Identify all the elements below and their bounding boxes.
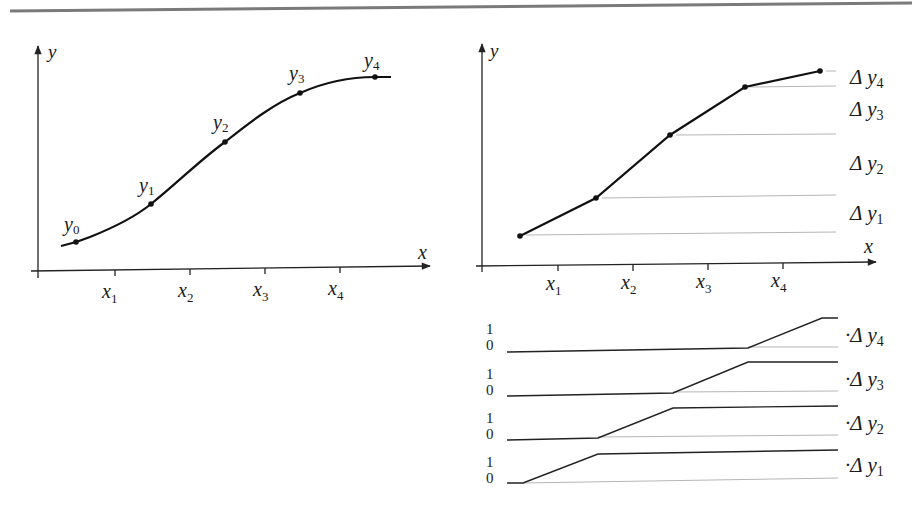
left-y-axis-label: y bbox=[46, 41, 57, 62]
ramp-label-zero: 0 bbox=[486, 382, 494, 398]
left-tick-x1: x1 bbox=[101, 280, 117, 306]
right-y-axis-label: y bbox=[488, 40, 499, 61]
label-delta-y1: Δ y1 bbox=[849, 201, 884, 227]
left-tick-x4: x4 bbox=[327, 277, 344, 303]
ramp-row-delta-y3: 1 0 ·Δ y3 bbox=[486, 362, 884, 398]
label-delta-y2: Δ y2 bbox=[849, 151, 884, 177]
label-y3: y3 bbox=[287, 62, 304, 86]
left-chart: y x x1 x2 x3 x4 y0 y1 y2 y3 y4 bbox=[31, 41, 430, 306]
right-tick-x3: x3 bbox=[695, 270, 711, 296]
ramp-row-delta-y4: 1 0 ·Δ y4 bbox=[486, 318, 884, 353]
ramp-label-one: 1 bbox=[486, 321, 494, 337]
left-tick-x2: x2 bbox=[177, 279, 193, 305]
ramp-label-zero: 0 bbox=[486, 426, 494, 442]
right-points bbox=[517, 68, 823, 239]
right-tick-x2: x2 bbox=[620, 271, 636, 297]
ramp-label-one: 1 bbox=[486, 454, 494, 470]
ramp-row-delta-y2: 1 0 ·Δ y2 bbox=[486, 406, 884, 442]
right-tick-x1: x1 bbox=[545, 272, 561, 298]
ramp-label-delta-y4: ·Δ y4 bbox=[845, 323, 884, 349]
right-x-axis-label: x bbox=[863, 235, 873, 257]
right-x-axis bbox=[476, 262, 876, 266]
label-delta-y3: Δ y3 bbox=[849, 97, 884, 123]
piecewise-linear bbox=[520, 71, 820, 236]
ramp-label-one: 1 bbox=[486, 410, 494, 426]
label-y2: y2 bbox=[211, 111, 228, 135]
label-y0: y0 bbox=[62, 213, 79, 237]
right-tick-x4: x4 bbox=[770, 269, 787, 295]
ramp-label-one: 1 bbox=[486, 366, 494, 382]
right-chart: y x x1 x2 x3 x4 Δ y4 Δ y3 bbox=[476, 40, 884, 298]
header-rule bbox=[10, 3, 912, 11]
left-x-axis-label: x bbox=[417, 241, 427, 263]
ramp-functions: 1 0 ·Δ y4 1 0 ·Δ y3 1 0 ·Δ y2 1 0 ·Δ y1 bbox=[486, 318, 884, 486]
label-y4: y4 bbox=[362, 49, 380, 73]
ramp-label-delta-y3: ·Δ y3 bbox=[845, 367, 884, 393]
left-tick-x3: x3 bbox=[252, 278, 268, 304]
label-delta-y4: Δ y4 bbox=[849, 65, 884, 91]
left-points bbox=[73, 74, 378, 245]
diagram-canvas: y x x1 x2 x3 x4 y0 y1 y2 y3 y4 bbox=[0, 0, 921, 514]
ramp-row-delta-y1: 1 0 ·Δ y1 bbox=[486, 450, 884, 486]
ramp-label-zero: 0 bbox=[486, 470, 494, 486]
ramp-label-zero: 0 bbox=[486, 337, 494, 353]
smooth-curve bbox=[61, 77, 391, 246]
left-x-axis bbox=[31, 266, 430, 271]
label-y1: y1 bbox=[137, 174, 154, 198]
ramp-label-delta-y1: ·Δ y1 bbox=[845, 453, 884, 479]
ramp-label-delta-y2: ·Δ y2 bbox=[845, 411, 884, 437]
